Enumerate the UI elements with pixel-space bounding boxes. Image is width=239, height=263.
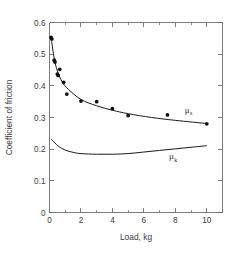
data-point	[56, 73, 60, 77]
x-tick-label: 10	[202, 216, 212, 225]
mu-s-label: μs	[185, 105, 193, 116]
plot-frame-border	[50, 23, 223, 213]
data-point	[79, 99, 83, 103]
y-tick-label: 0	[41, 209, 46, 218]
data-point	[50, 37, 54, 41]
mu-k-label: μk	[169, 151, 177, 162]
y-axis-major-ticks	[50, 23, 223, 213]
x-tick-label: 0	[47, 216, 52, 225]
data-point	[205, 122, 209, 126]
y-tick-label: 0.5	[34, 50, 46, 59]
data-point	[166, 113, 170, 117]
data-point	[95, 100, 99, 104]
data-point	[111, 107, 115, 111]
plot-canvas: 0246810 00.10.20.30.40.50.6 Load, kg Coe…	[0, 0, 239, 263]
data-point	[53, 60, 57, 64]
series-mu-k	[51, 139, 207, 154]
data-point	[65, 92, 69, 96]
x-tick-label: 6	[142, 216, 147, 225]
data-point	[58, 67, 62, 71]
y-tick-label: 0.3	[34, 114, 46, 123]
curve-labels: μsμk	[169, 105, 193, 163]
friction-coefficient-figure: 0246810 00.10.20.30.40.50.6 Load, kg Coe…	[0, 0, 239, 263]
data-point	[62, 80, 66, 84]
x-tick-label: 4	[110, 216, 115, 225]
x-axis-title: Load, kg	[120, 232, 152, 242]
data-point	[126, 114, 130, 118]
mu-k-curve	[51, 139, 207, 154]
x-tick-label: 8	[173, 216, 178, 225]
y-tick-label: 0.4	[34, 82, 46, 91]
y-axis-title: Coefficient of friction	[4, 79, 14, 155]
x-axis-minor-ticks	[65, 23, 222, 213]
y-tick-label: 0.1	[34, 177, 46, 186]
x-tick-label: 2	[79, 216, 84, 225]
axis-frame	[50, 23, 223, 213]
y-tick-label: 0.6	[34, 19, 46, 28]
x-axis-tick-labels: 0246810	[47, 216, 212, 225]
mu-s-curve	[51, 37, 207, 123]
y-tick-label: 0.2	[34, 145, 46, 154]
y-axis-tick-labels: 00.10.20.30.40.50.6	[34, 19, 46, 218]
x-axis-major-ticks	[50, 23, 207, 213]
